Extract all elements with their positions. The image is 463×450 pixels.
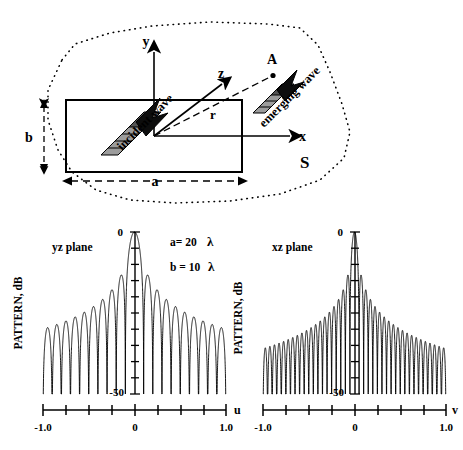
surface-label-s: S xyxy=(300,153,309,172)
yz-xtick-max: 1.0 xyxy=(219,421,233,433)
aperture-parameters: a= 20 λ b = 10 λ xyxy=(170,234,215,274)
emerging-wave-label: emerging wave xyxy=(256,63,323,130)
figure-root: y x z A r S a b incident wave emerging w… xyxy=(0,0,463,450)
plot-xz-plane: 0 -50 PATTERN, dB -1.0 0 1.0 xyxy=(232,226,458,433)
observation-point-A-dot xyxy=(270,73,275,78)
xz-ylabel-top: 0 xyxy=(338,226,344,238)
pattern-plots: 0 -50 PATTERN, dB -1.0 0 xyxy=(0,218,463,450)
x-axis-label: x xyxy=(299,129,306,144)
aperture-height-label-b: b xyxy=(25,130,33,145)
plots-svg: 0 -50 PATTERN, dB -1.0 0 xyxy=(0,218,463,450)
b-arrow-up xyxy=(40,99,48,108)
range-label-r: r xyxy=(210,107,216,122)
yz-xtick-mid: 0 xyxy=(132,421,138,433)
a-arrow-left xyxy=(62,177,72,186)
b-arrow-down xyxy=(40,164,48,173)
z-axis-label: z xyxy=(218,66,224,81)
yz-xtick-min: -1.0 xyxy=(34,421,52,433)
point-a-label: A xyxy=(267,52,278,67)
xz-axis-title-y: PATTERN, dB xyxy=(232,281,244,354)
xz-xtick-max: 1.0 xyxy=(439,421,453,433)
xz-plot-title: xz plane xyxy=(272,241,313,254)
xz-xtick-min: -1.0 xyxy=(254,421,272,433)
range-vector-r xyxy=(154,76,272,136)
plot-yz-plane: 0 -50 PATTERN, dB -1.0 0 xyxy=(12,226,241,433)
param-a-text: a= 20 xyxy=(170,236,197,248)
xz-axis-title-x: v xyxy=(452,403,458,417)
y-axis-label: y xyxy=(143,34,150,49)
yz-ylabel-bottom: -50 xyxy=(109,386,124,398)
aperture-geometry-diagram: y x z A r S a b incident wave emerging w… xyxy=(0,0,463,222)
yz-ylabel-top: 0 xyxy=(118,226,124,238)
xz-xtick-mid: 0 xyxy=(352,421,358,433)
a-arrow-right xyxy=(238,177,248,186)
param-a-lambda: λ xyxy=(207,234,214,249)
param-b-lambda: λ xyxy=(208,259,215,274)
diagram-svg: y x z A r S a b incident wave emerging w… xyxy=(0,0,463,222)
yz-axis-title-y: PATTERN, dB xyxy=(12,276,24,349)
param-b-text: b = 10 xyxy=(170,261,200,273)
yz-axis-title-x: u xyxy=(234,403,241,417)
aperture-width-label-a: a xyxy=(152,174,159,189)
yz-plot-title: yz plane xyxy=(52,241,93,254)
